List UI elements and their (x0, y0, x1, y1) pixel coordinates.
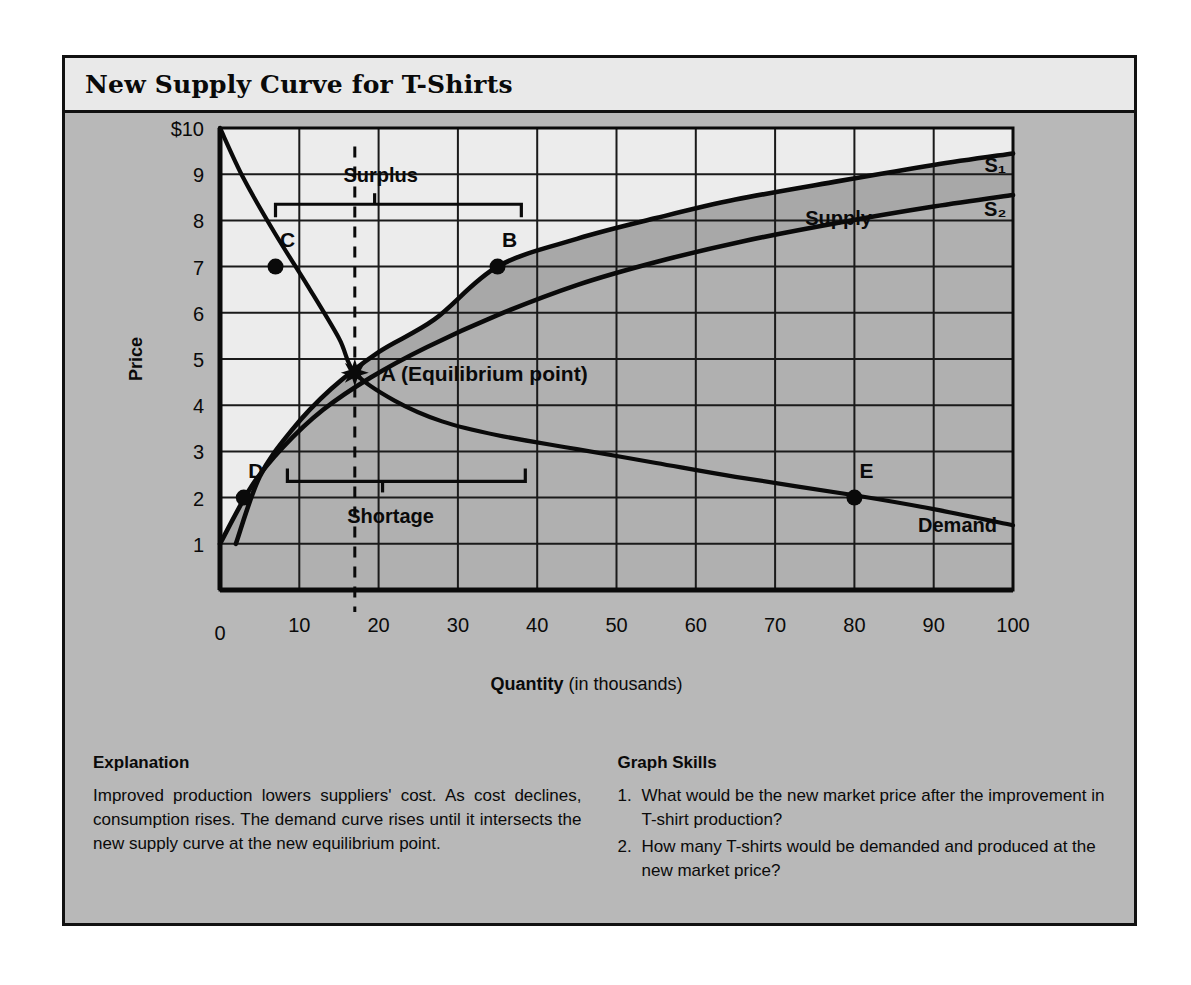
data-point-label-d: D (248, 459, 263, 482)
graph-skills-item: 2.How many T-shirts would be demanded an… (618, 835, 1107, 883)
y-axis-tick-label: 9 (193, 164, 204, 186)
x-axis-tick-label: 0 (214, 622, 225, 644)
explanation-body: Improved production lowers suppliers' co… (93, 784, 582, 856)
series-label-s2: S₂ (984, 198, 1006, 220)
graph-skills-heading: Graph Skills (618, 753, 1107, 773)
graph-skills-item-text: How many T-shirts would be demanded and … (642, 837, 1096, 880)
data-point-label-e: E (859, 459, 873, 482)
graph-skills-panel: Graph Skills 1.What would be the new mar… (618, 753, 1107, 887)
x-axis-title: Quantity (in thousands) (490, 674, 682, 694)
x-axis-tick-label: 50 (605, 614, 627, 636)
graph-skills-list: 1.What would be the new market price aft… (618, 784, 1107, 884)
data-point-marker-d (236, 490, 252, 506)
data-point-label-c: C (280, 228, 295, 251)
data-point-marker-a (341, 359, 369, 387)
x-axis-tick-label: 30 (447, 614, 469, 636)
x-axis-tick-label: 60 (685, 614, 707, 636)
y-axis-tick-label: 6 (193, 303, 204, 325)
x-axis-tick-label: 10 (288, 614, 310, 636)
annotation-label: Shortage (347, 505, 434, 527)
x-axis-tick-label: 80 (843, 614, 865, 636)
x-axis-tick-label: 70 (764, 614, 786, 636)
x-axis-tick-label: 20 (367, 614, 389, 636)
demand-curve-label: Demand (918, 514, 997, 536)
y-axis-title: Price (126, 337, 146, 381)
graph-skills-item-number: 2. (618, 835, 632, 859)
figure-frame: New Supply Curve for T-Shirts 123456789$… (62, 55, 1137, 926)
data-point-marker-c (268, 259, 284, 275)
data-point-marker-b (490, 259, 506, 275)
explanation-heading: Explanation (93, 753, 582, 773)
y-axis-tick-label: $10 (171, 118, 204, 140)
y-axis-tick-label: 3 (193, 441, 204, 463)
graph-skills-item: 1.What would be the new market price aft… (618, 784, 1107, 832)
data-point-label-b: B (502, 228, 517, 251)
x-axis-tick-label: 100 (996, 614, 1029, 636)
chart-area: 123456789$100102030405060708090100PriceQ… (65, 113, 1134, 753)
x-axis-tick-label: 90 (923, 614, 945, 636)
y-axis-tick-label: 2 (193, 488, 204, 510)
page-title: New Supply Curve for T-Shirts (65, 70, 513, 99)
series-label-s1: S₁ (984, 154, 1006, 176)
graph-skills-item-text: What would be the new market price after… (642, 786, 1105, 829)
explanation-panel: Explanation Improved production lowers s… (93, 753, 582, 887)
data-point-label-a: A (Equilibrium point) (381, 362, 588, 385)
annotation-label: Surplus (343, 164, 417, 186)
figure-title-bar: New Supply Curve for T-Shirts (65, 58, 1134, 113)
graph-skills-item-number: 1. (618, 784, 632, 808)
y-axis-tick-label: 8 (193, 210, 204, 232)
y-axis-tick-label: 1 (193, 534, 204, 556)
y-axis-tick-label: 5 (193, 349, 204, 371)
y-axis-tick-label: 4 (193, 395, 204, 417)
y-axis-tick-label: 7 (193, 257, 204, 279)
bottom-panels: Explanation Improved production lowers s… (65, 753, 1134, 887)
data-point-marker-e (846, 490, 862, 506)
x-axis-tick-label: 40 (526, 614, 548, 636)
supply-curve-label: Supply (805, 207, 873, 229)
supply-demand-chart: 123456789$100102030405060708090100PriceQ… (65, 113, 1134, 753)
